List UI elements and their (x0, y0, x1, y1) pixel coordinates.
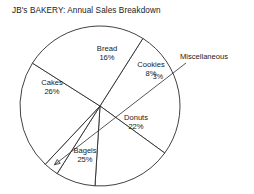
slice-label-name: Donuts (96, 113, 176, 122)
slice-label-percent-miscellaneous: 3% (138, 73, 178, 82)
slice-label-percent: 25% (45, 155, 125, 164)
slice-label-cakes: Cakes26% (12, 78, 92, 97)
slice-label-name: Cakes (12, 78, 92, 87)
slice-label-name: Cookies (111, 60, 191, 69)
pie-chart: JB's BAKERY: Annual Sales Breakdown Cake… (0, 0, 254, 194)
slice-label-percent: 22% (96, 122, 176, 131)
pie-canvas (0, 0, 254, 194)
slice-label-percent: 26% (12, 87, 92, 96)
slice-label-bagels: Bagels25% (45, 146, 125, 165)
slice-label-donuts: Donuts22% (96, 113, 176, 132)
callout-label-miscellaneous: Miscellaneous (164, 52, 244, 61)
slice-label-name: Bagels (45, 146, 125, 155)
slice-label-name: Bread (67, 44, 147, 53)
